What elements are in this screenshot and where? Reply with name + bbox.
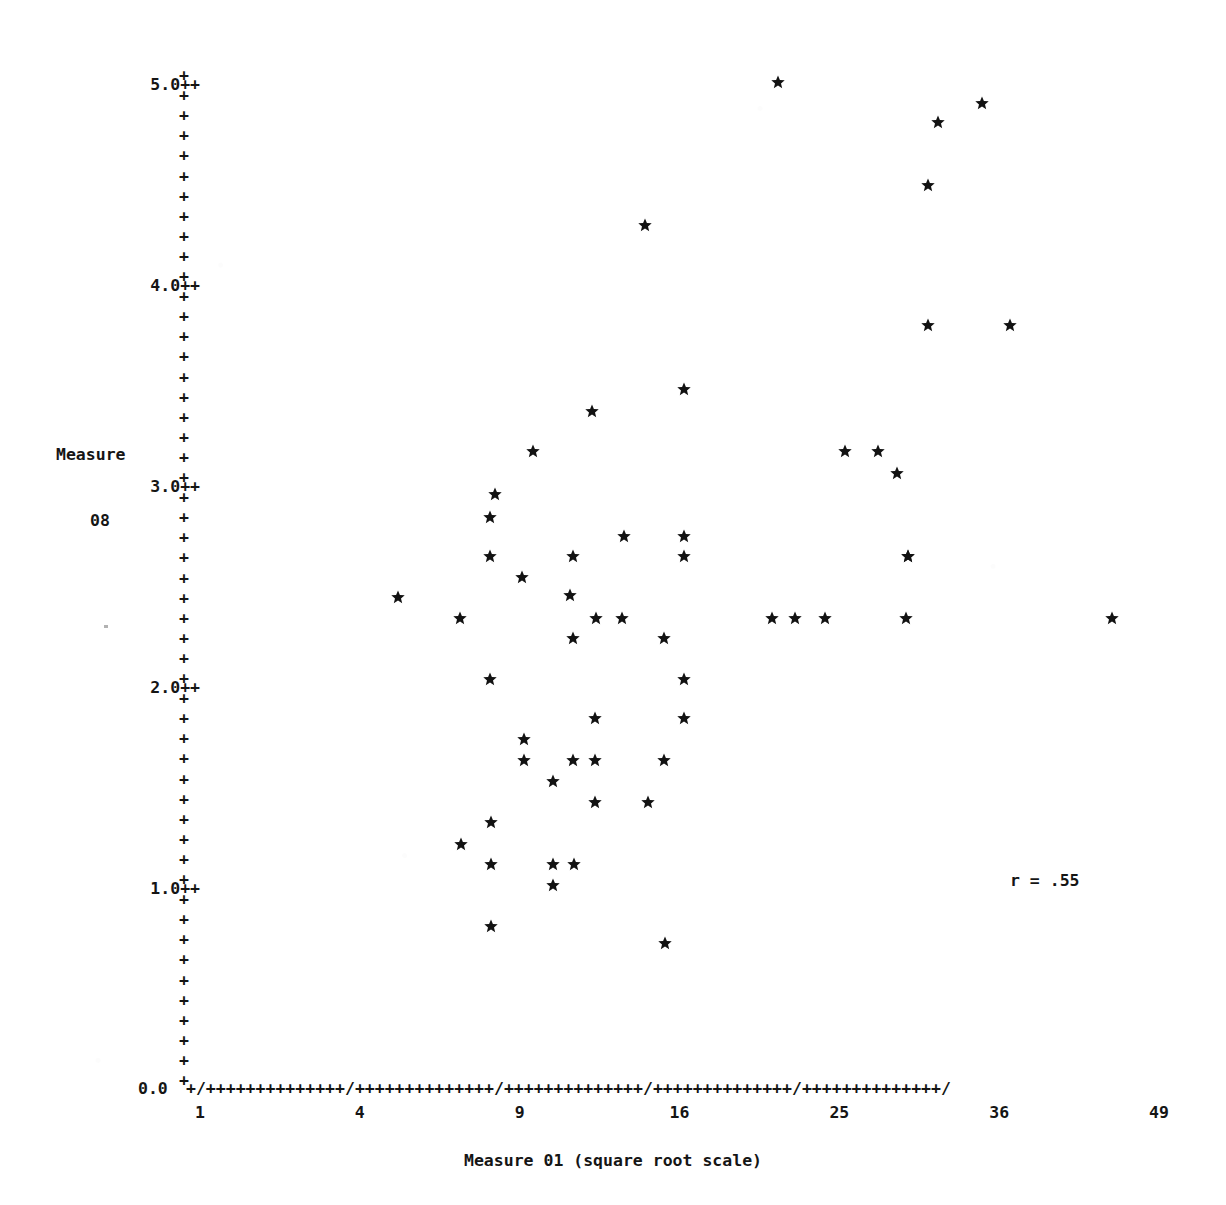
data-point-marker: [677, 711, 691, 725]
data-point-marker: [871, 444, 885, 458]
data-point-marker: [901, 549, 915, 563]
data-point-marker: [975, 96, 989, 110]
data-point-marker: [453, 611, 467, 625]
data-point-marker: [641, 795, 655, 809]
data-point-marker: [563, 588, 577, 602]
data-point-marker: [617, 529, 631, 543]
data-point-marker: [546, 878, 560, 892]
data-point-marker: [566, 753, 580, 767]
data-point-marker: [588, 753, 602, 767]
data-point-marker: [657, 753, 671, 767]
data-point-marker: [677, 529, 691, 543]
data-point-marker: [567, 857, 581, 871]
data-point-marker: [677, 672, 691, 686]
data-point-marker: [566, 631, 580, 645]
data-point-marker: [454, 837, 468, 851]
data-point-marker: [921, 318, 935, 332]
data-point-marker: [483, 510, 497, 524]
data-points-layer: [0, 0, 1226, 1205]
data-point-marker: [589, 611, 603, 625]
data-point-marker: [484, 857, 498, 871]
data-point-marker: [588, 795, 602, 809]
data-point-marker: [931, 115, 945, 129]
data-point-marker: [899, 611, 913, 625]
data-point-marker: [391, 590, 405, 604]
data-point-marker: [677, 382, 691, 396]
data-point-marker: [526, 444, 540, 458]
data-point-marker: [765, 611, 779, 625]
data-point-marker: [484, 815, 498, 829]
data-point-marker: [566, 549, 580, 563]
data-point-marker: [1003, 318, 1017, 332]
data-point-marker: [890, 466, 904, 480]
data-point-marker: [483, 549, 497, 563]
data-point-marker: [483, 672, 497, 686]
data-point-marker: [638, 218, 652, 232]
data-point-marker: [615, 611, 629, 625]
data-point-marker: [588, 711, 602, 725]
scatter-plot: ++++++++++++++++++++++++++++++++++++++++…: [0, 0, 1226, 1205]
data-point-marker: [488, 487, 502, 501]
data-point-marker: [484, 919, 498, 933]
data-point-marker: [921, 178, 935, 192]
data-point-marker: [788, 611, 802, 625]
data-point-marker: [658, 936, 672, 950]
data-point-marker: [838, 444, 852, 458]
data-point-marker: [517, 753, 531, 767]
data-point-marker: [546, 774, 560, 788]
data-point-marker: [677, 549, 691, 563]
data-point-marker: [546, 857, 560, 871]
data-point-marker: [585, 404, 599, 418]
data-point-marker: [818, 611, 832, 625]
data-point-marker: [517, 732, 531, 746]
data-point-marker: [657, 631, 671, 645]
data-point-marker: [515, 570, 529, 584]
data-point-marker: [1105, 611, 1119, 625]
data-point-marker: [771, 75, 785, 89]
